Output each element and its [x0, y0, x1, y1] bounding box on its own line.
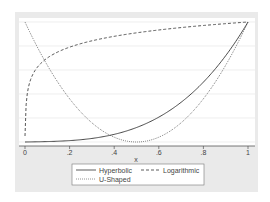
x-tick-label: .4: [111, 149, 117, 156]
x-tick-label: 1: [246, 149, 250, 156]
x-tick-label: .2: [67, 149, 73, 156]
legend-label-logarithmic: Logarithmic: [163, 167, 200, 175]
x-axis-ticks: 0.2.4.6.81: [23, 146, 250, 156]
legend-label-u-shaped: U-Shaped: [99, 176, 131, 184]
plot-area: [19, 18, 255, 146]
legend: Hyperbolic Logarithmic U-Shaped: [72, 164, 204, 185]
x-tick-label: .6: [156, 149, 162, 156]
legend-label-hyperbolic: Hyperbolic: [99, 167, 133, 175]
line-chart: 0.2.4.6.81 x Hyperbolic Logarithmic U-Sh…: [0, 0, 270, 202]
x-tick-label: 0: [23, 149, 27, 156]
x-axis-label: x: [134, 156, 138, 163]
x-tick-label: .8: [200, 149, 206, 156]
